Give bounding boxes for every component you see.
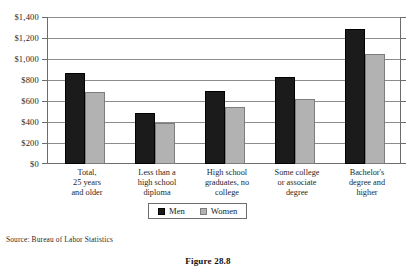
xtick-label-bach-line2: degree and (324, 178, 410, 188)
legend-item-women: Women (200, 206, 238, 216)
bar-men-high-school-graduates (205, 91, 225, 165)
ytick-mark-right-1400 (401, 17, 406, 18)
xtick-label-bachelors-degree: Bachelor's degree and higher (324, 168, 410, 199)
ytick-label-1200: $1,200 (0, 33, 39, 43)
figure-caption: Figure 28.8 (0, 256, 416, 266)
legend-item-men: Men (158, 206, 185, 216)
ytick-mark-right-400 (401, 122, 406, 123)
bar-women-less-than-high-school (155, 123, 175, 164)
bar-men-less-than-high-school (135, 113, 155, 164)
ytick-mark-right-0 (401, 163, 406, 164)
ytick-label-1400: $1,400 (0, 12, 39, 22)
bar-women-bachelors-degree (365, 54, 385, 164)
legend-swatch-women-icon (200, 208, 207, 215)
bar-group-bachelors-degree (345, 17, 389, 164)
chart-legend: Men Women (148, 203, 247, 219)
bar-men-some-college (275, 77, 295, 164)
bar-men-bachelors-degree (345, 29, 365, 164)
bar-women-high-school-graduates (225, 107, 245, 164)
bar-group-some-college (275, 17, 319, 164)
bar-men-total (65, 73, 85, 164)
bar-group-total (65, 17, 109, 164)
legend-label-men: Men (169, 206, 185, 216)
ytick-label-400: $400 (0, 117, 39, 127)
xtick-label-bach-line1: Bachelor's (324, 168, 410, 178)
bar-women-total (85, 92, 105, 164)
plot-area (47, 17, 401, 164)
ytick-mark-right-200 (401, 143, 406, 144)
legend-label-women: Women (211, 206, 238, 216)
ytick-mark-right-800 (401, 80, 406, 81)
ytick-mark-right-1200 (401, 38, 406, 39)
ytick-label-200: $200 (0, 138, 39, 148)
xtick-label-bach-line3: higher (324, 188, 410, 198)
bar-group-high-school-graduates (205, 17, 249, 164)
bar-women-some-college (295, 99, 315, 164)
bar-group-less-than-high-school (135, 17, 179, 164)
ytick-label-800: $800 (0, 75, 39, 85)
ytick-mark-right-600 (401, 101, 406, 102)
ytick-label-600: $600 (0, 96, 39, 106)
figure-container: $1,400 $1,200 $1,000 $800 $600 $400 $200… (0, 0, 416, 267)
ytick-label-0: $0 (0, 159, 39, 169)
source-note: Source: Bureau of Labor Statistics (6, 235, 113, 244)
ytick-mark-right-1000 (401, 59, 406, 60)
ytick-label-1000: $1,000 (0, 54, 39, 64)
legend-swatch-men-icon (158, 208, 165, 215)
